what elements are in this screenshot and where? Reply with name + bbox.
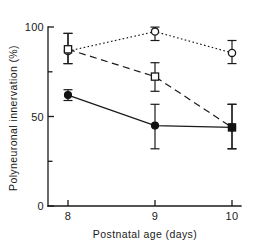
data-point-open-square-day8 bbox=[64, 46, 71, 53]
y-axis-title: Polyneuronal innervation (%) bbox=[7, 45, 19, 191]
polyneuronal-innervation-line-chart: 100 50 0 8 9 10 Postnatal age (days) Pol… bbox=[0, 0, 255, 246]
chart-figure: 100 50 0 8 9 10 Postnatal age (days) Pol… bbox=[0, 0, 255, 246]
x-tick-label-8: 8 bbox=[65, 210, 71, 222]
series-filled-circle-solid bbox=[64, 90, 237, 149]
x-tick-label-9: 9 bbox=[152, 210, 158, 222]
x-tick-label-10: 10 bbox=[226, 210, 239, 222]
y-tick-label-50: 50 bbox=[31, 111, 44, 123]
y-tick-label-100: 100 bbox=[25, 21, 44, 33]
series-line-open-circle-dotted bbox=[68, 32, 232, 53]
series-line-open-square-dashed bbox=[68, 49, 232, 127]
series-open-circle-dotted bbox=[64, 27, 237, 64]
data-point-filled-circle-day8 bbox=[65, 92, 72, 99]
data-point-filled-circle-day10 bbox=[229, 124, 236, 131]
x-axis-title: Postnatal age (days) bbox=[93, 228, 197, 240]
y-tick-label-0: 0 bbox=[38, 200, 44, 212]
data-point-open-circle-day10 bbox=[228, 49, 235, 56]
data-point-open-square-day9 bbox=[151, 73, 158, 80]
data-point-filled-circle-day9 bbox=[152, 122, 159, 129]
series-open-square-dashed bbox=[64, 33, 237, 148]
data-point-open-circle-day9 bbox=[151, 28, 158, 35]
